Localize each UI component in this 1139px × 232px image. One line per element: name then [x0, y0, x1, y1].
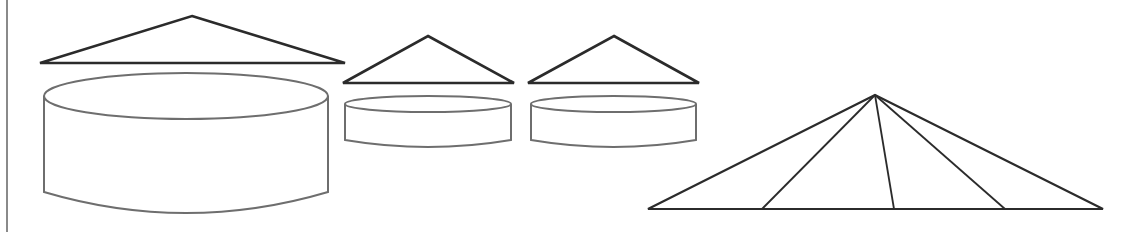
small-triangle-2: [528, 36, 699, 83]
large-cylinder: [44, 73, 328, 213]
small-triangle-1: [343, 36, 514, 83]
triangle-outline: [528, 36, 699, 83]
small-cylinder-1: [345, 96, 511, 147]
diagram-svg: [0, 0, 1139, 232]
divided-triangle: [648, 95, 1103, 209]
fan-triangle-outline: [648, 95, 1103, 209]
shapes-layer: [40, 16, 1103, 213]
triangle-outline: [40, 16, 345, 63]
triangle-outline: [343, 36, 514, 83]
diagram-canvas: [0, 0, 1139, 232]
cylinder-top-ellipse: [44, 73, 328, 119]
cylinder-top-ellipse: [345, 96, 511, 112]
large-triangle: [40, 16, 345, 63]
small-cylinder-2: [531, 96, 696, 147]
cylinder-top-ellipse: [531, 96, 696, 112]
